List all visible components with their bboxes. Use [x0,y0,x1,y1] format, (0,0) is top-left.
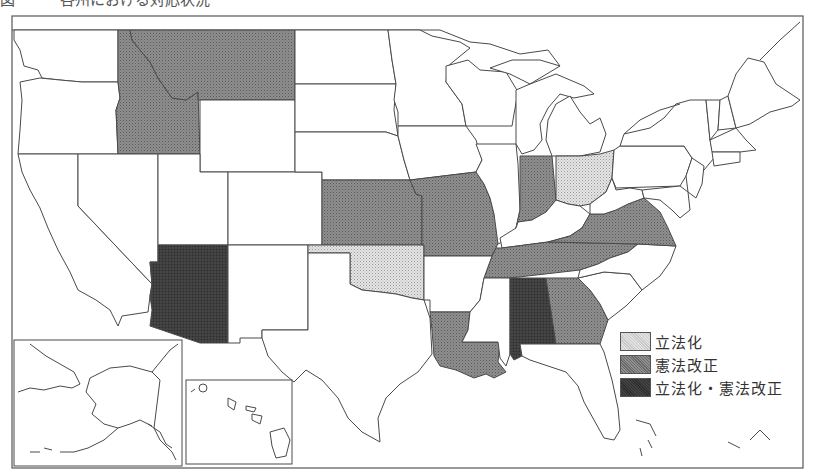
state-north-dakota [295,30,396,84]
state-oregon [18,78,120,154]
state-pennsylvania [612,146,692,188]
legend-swatch-light [620,332,651,351]
legend-item-constitutional-amendment: 憲法改正 [620,353,783,375]
hawaii-inset-frame [186,380,292,464]
legend-item-legislation: 立法化 [620,330,783,352]
legend-swatch-medium [620,355,651,374]
state-south-dakota [295,84,398,136]
us-states-map [0,0,816,474]
legend-label: 立法化 [655,331,703,352]
legend-swatch-dark [620,378,651,397]
state-kansas [322,180,422,245]
state-wyoming [200,100,295,172]
legend-label: 立法化・憲法改正 [655,377,783,398]
state-new-mexico [228,245,308,343]
legend-item-both: 立法化・憲法改正 [620,376,783,398]
legend-label: 憲法改正 [655,354,719,375]
state-iowa [398,126,482,180]
state-colorado [228,172,322,245]
legend: 立法化 憲法改正 立法化・憲法改正 [620,330,783,399]
state-arizona [150,245,228,343]
